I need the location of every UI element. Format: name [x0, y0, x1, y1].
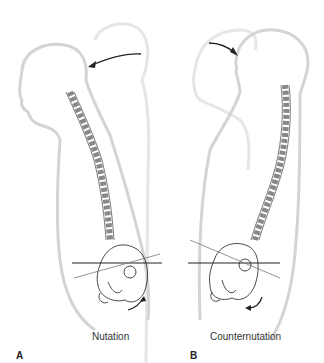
- panel-a-spine: [66, 92, 114, 240]
- arrowhead-icon: [245, 305, 251, 311]
- panel-a-illustration: [20, 24, 162, 363]
- panel-b-illustration: [188, 30, 308, 340]
- panel-b-ghost-silhouette: [194, 30, 256, 170]
- panel-b-pelvis: [209, 243, 258, 301]
- panel-a-letter: A: [16, 350, 23, 361]
- panel-a-body-silhouette: [20, 44, 149, 330]
- arrowhead-icon: [88, 61, 96, 68]
- panel-a-head-rotation-arrow: [90, 54, 141, 66]
- panel-b-caption: Counternutation: [210, 331, 281, 342]
- panel-b-tilted-reference-line: [190, 240, 280, 278]
- panel-a-sacral-rotation-arrow: [128, 298, 143, 310]
- panel-a-caption: Nutation: [92, 331, 129, 342]
- panel-a-pelvis: [97, 245, 147, 303]
- panel-b-letter: B: [190, 350, 197, 361]
- panel-b-body-silhouette: [199, 30, 308, 340]
- illustration: [0, 0, 324, 363]
- nutation-counternutation-figure: Nutation Counternutation A B: [0, 0, 324, 363]
- panel-b-spine: [251, 85, 290, 240]
- panel-a-ghost-silhouette: [95, 24, 149, 363]
